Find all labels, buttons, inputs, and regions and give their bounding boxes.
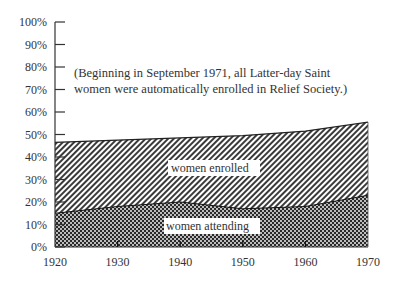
y-tick-label: 100% xyxy=(19,15,47,29)
y-tick-label: 20% xyxy=(25,195,47,209)
annotation: (Beginning in September 1971, all Latter… xyxy=(74,66,347,96)
annotation-line-1: (Beginning in September 1971, all Latter… xyxy=(74,66,331,80)
area-label-attending: women attending xyxy=(166,219,249,233)
y-tick-label: 50% xyxy=(25,128,47,142)
x-tick-label: 1960 xyxy=(293,255,317,269)
y-tick-label: 60% xyxy=(25,105,47,119)
x-tick-label: 1920 xyxy=(43,255,67,269)
y-tick-label: 70% xyxy=(25,83,47,97)
annotation-line-2: women were automatically enrolled in Rel… xyxy=(74,82,347,96)
y-tick-label: 40% xyxy=(25,150,47,164)
y-tick-label: 10% xyxy=(25,218,47,232)
x-tick-label: 1930 xyxy=(106,255,130,269)
y-tick-label: 0% xyxy=(31,240,47,254)
y-tick-label: 80% xyxy=(25,60,47,74)
x-tick-label: 1940 xyxy=(168,255,192,269)
y-tick-label: 30% xyxy=(25,173,47,187)
label-enrolled: women enrolled xyxy=(168,160,260,176)
label-attending: women attending xyxy=(164,218,260,234)
area-chart: 0%10%20%30%40%50%60%70%80%90%100% 192019… xyxy=(0,0,399,282)
y-tick-label: 90% xyxy=(25,38,47,52)
x-tick-label: 1970 xyxy=(356,255,380,269)
area-label-enrolled: women enrolled xyxy=(171,161,249,175)
x-tick-label: 1950 xyxy=(231,255,255,269)
